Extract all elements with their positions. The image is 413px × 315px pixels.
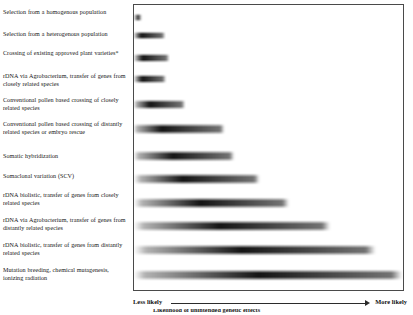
figure-caption-text: Likelihood of unintended genetic effects	[153, 309, 260, 313]
likelihood-gradient-bar	[134, 13, 146, 22]
likelihood-gradient-bar	[134, 197, 292, 209]
axis-label-more-likely: More likely	[375, 298, 407, 305]
likelihood-gradient-bar	[134, 220, 334, 232]
technique-label-column: Selection from a homogenous populationSe…	[0, 0, 131, 292]
likelihood-gradient-bar	[134, 99, 186, 110]
axis-label-less-likely: Less likely	[133, 298, 162, 305]
technique-label: rDNA biolistic, transfer of genes from c…	[3, 191, 131, 207]
likelihood-gradient-bar	[134, 244, 378, 256]
gradient-bars-layer	[134, 5, 403, 290]
figure-caption-strip: Likelihood of unintended genetic effects	[133, 309, 407, 315]
technique-label: Conventional pollen based crossing of cl…	[3, 96, 131, 112]
likelihood-gradient-bar	[134, 74, 167, 84]
likelihood-gradient-bar	[134, 150, 236, 162]
likelihood-axis: Less likely More likely	[133, 298, 407, 309]
technique-label: rDNA via Agrobacterium, transfer of gene…	[3, 216, 131, 232]
technique-label: Somaclonal variation (SCV)	[3, 172, 131, 180]
technique-label: rDNA via Agrobacterium, transfer of gene…	[3, 72, 131, 88]
technique-label: Selection from a heterogenous population	[3, 30, 131, 38]
likelihood-gradient-bar	[134, 123, 226, 135]
technique-label: Selection from a homogenous population	[3, 8, 131, 16]
likelihood-gradient-bar	[134, 31, 166, 40]
technique-label: Somatic hybridization	[3, 152, 131, 160]
technique-label: Conventional pollen based crossing of di…	[3, 120, 131, 136]
technique-label: Mutation breeding, chemical mutagenesis,…	[3, 266, 131, 282]
likelihood-gradient-bar	[134, 269, 404, 281]
likelihood-gradient-bar	[134, 53, 170, 63]
likelihood-gradient-bar	[134, 173, 262, 185]
technique-label: Crossing of existing approved plant vari…	[3, 49, 131, 57]
likelihood-gradient-figure: Selection from a homogenous populationSe…	[0, 0, 413, 315]
technique-label: rDNA biolistic, transfer of genes from d…	[3, 241, 131, 257]
plot-frame	[133, 4, 404, 291]
axis-arrow-icon	[171, 303, 370, 304]
